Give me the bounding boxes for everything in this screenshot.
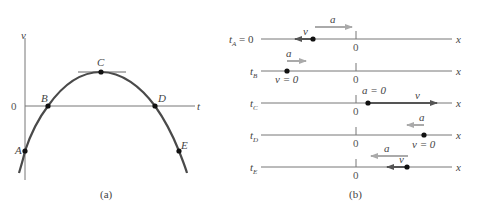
acceleration-label: a: [384, 142, 390, 154]
x-axis-label: x: [455, 97, 461, 109]
origin-label: 0: [353, 169, 359, 181]
velocity-curve: [19, 72, 187, 173]
point-c-dot: [98, 69, 103, 74]
point-b-label: B: [41, 92, 48, 104]
acceleration-label: a: [330, 13, 336, 25]
velocity-label: v = 0: [412, 138, 436, 150]
row-ta: tA = 0 0 x a v: [229, 13, 461, 53]
point-a-label: A: [14, 144, 22, 156]
time-label-ta: tA = 0: [229, 33, 254, 48]
velocity-label: v: [399, 153, 404, 165]
velocity-label: v: [415, 89, 420, 101]
motion-diagram: v t 0 A B C D E (a) tA = 0 0 x a v: [0, 0, 478, 210]
velocity-label: v: [303, 25, 308, 37]
time-label-te: tE: [250, 161, 258, 176]
x-axis-label: x: [455, 33, 461, 45]
x-axis-label: x: [455, 65, 461, 77]
t-axis-label: t: [197, 100, 201, 112]
acceleration-label: a = 0: [362, 84, 386, 96]
x-axis-label: x: [455, 129, 461, 141]
point-d-dot: [152, 103, 157, 108]
acceleration-label: a: [419, 111, 425, 123]
position-line-diagrams: tA = 0 0 x a v tB 0 x a v = 0 tC: [229, 13, 461, 201]
point-b-dot: [45, 103, 50, 108]
velocity-time-graph: v t 0 A B C D E (a): [11, 29, 201, 201]
point-d-label: D: [157, 92, 166, 104]
origin-label: 0: [11, 100, 17, 112]
origin-label: 0: [353, 41, 359, 53]
particle-dot: [421, 132, 426, 137]
particle-dot: [404, 164, 409, 169]
acceleration-label: a: [286, 47, 292, 59]
x-axis-label: x: [455, 161, 461, 173]
caption-b: (b): [349, 188, 362, 201]
v-axis-label: v: [21, 29, 26, 41]
caption-a: (a): [100, 188, 113, 201]
point-e-label: E: [180, 139, 188, 151]
origin-label: 0: [353, 73, 359, 85]
particle-dot: [365, 100, 370, 105]
origin-label: 0: [353, 105, 359, 117]
time-label-tc: tC: [250, 97, 258, 112]
time-label-td: tD: [250, 129, 258, 144]
point-c-label: C: [97, 56, 105, 68]
velocity-label: v = 0: [275, 73, 299, 85]
particle-dot: [310, 36, 315, 41]
row-tc: tC 0 x a = 0 v: [250, 84, 461, 117]
point-a-dot: [22, 148, 27, 153]
time-label-tb: tB: [250, 65, 258, 80]
origin-label: 0: [353, 137, 359, 149]
